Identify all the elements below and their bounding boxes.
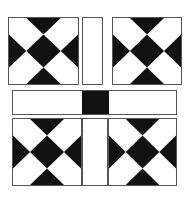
hourglass-pattern-icon (13, 119, 81, 185)
top-left-hourglass-block (8, 17, 79, 85)
bottom-center-vertical-strip (82, 118, 108, 186)
sash-center-square (82, 91, 109, 114)
middle-horizontal-sash (12, 90, 177, 115)
bottom-left-hourglass-block (12, 118, 82, 186)
bottom-right-hourglass-block (108, 118, 177, 186)
hourglass-pattern-icon (113, 18, 181, 84)
hourglass-pattern-icon (9, 18, 78, 84)
hourglass-pattern-icon (109, 119, 176, 185)
top-center-vertical-strip (82, 17, 103, 85)
top-right-hourglass-block (112, 17, 182, 85)
